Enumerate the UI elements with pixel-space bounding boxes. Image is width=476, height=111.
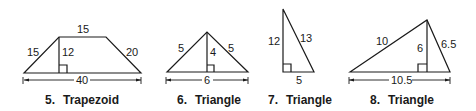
figure-triangle-7: 12 13 5 7. Triangle bbox=[268, 9, 332, 107]
figure-number: 7. bbox=[268, 93, 278, 107]
figure-caption: Triangle bbox=[286, 93, 332, 107]
triangle-right-label: 5 bbox=[228, 42, 234, 54]
figure-caption: Triangle bbox=[195, 93, 241, 107]
triangle-left-label: 10 bbox=[376, 35, 388, 47]
trapezoid-right-label: 20 bbox=[126, 46, 138, 58]
triangle-hypotenuse-label: 13 bbox=[300, 32, 312, 44]
arrow-right-icon bbox=[243, 79, 248, 82]
figure-caption: Trapezoid bbox=[63, 93, 119, 107]
triangle-shape bbox=[350, 20, 450, 72]
figure-triangle-6: 5 4 5 6 6. Triangle bbox=[166, 32, 248, 107]
geometry-figures: 15 15 12 20 40 5. Trapezoid 5 4 5 6 6. T… bbox=[0, 0, 476, 111]
arrow-right-icon bbox=[445, 79, 450, 82]
right-angle-marker-icon bbox=[207, 65, 214, 72]
arrow-left-icon bbox=[349, 79, 354, 82]
triangle-left-label: 5 bbox=[178, 42, 184, 54]
figure-number: 5. bbox=[45, 93, 55, 107]
triangle-height-label: 6 bbox=[417, 42, 423, 54]
triangle-height-label: 4 bbox=[210, 46, 216, 58]
figure-triangle-8: 10 6 6.5 10.5 8. Triangle bbox=[349, 20, 456, 107]
figure-trapezoid: 15 15 12 20 40 5. Trapezoid bbox=[23, 23, 141, 107]
arrow-left-icon bbox=[24, 79, 29, 82]
trapezoid-top-label: 15 bbox=[77, 23, 89, 35]
figure-caption: Triangle bbox=[388, 93, 434, 107]
arrow-right-icon bbox=[136, 79, 141, 82]
right-angle-marker-icon bbox=[283, 64, 291, 72]
figure-number: 6. bbox=[177, 93, 187, 107]
trapezoid-shape bbox=[24, 37, 141, 73]
right-angle-marker-icon bbox=[59, 65, 67, 73]
trapezoid-height-label: 12 bbox=[62, 46, 74, 58]
triangle-base-label: 10.5 bbox=[391, 74, 412, 86]
trapezoid-base-label: 40 bbox=[76, 74, 88, 86]
figure-number: 8. bbox=[370, 93, 380, 107]
right-angle-marker-icon bbox=[418, 64, 427, 72]
triangle-base-label: 6 bbox=[204, 74, 210, 86]
trapezoid-left-label: 15 bbox=[27, 46, 39, 58]
triangle-base-label: 5 bbox=[296, 74, 302, 86]
triangle-right-label: 6.5 bbox=[441, 38, 456, 50]
triangle-leg-label: 12 bbox=[268, 35, 280, 47]
arrow-left-icon bbox=[166, 79, 171, 82]
